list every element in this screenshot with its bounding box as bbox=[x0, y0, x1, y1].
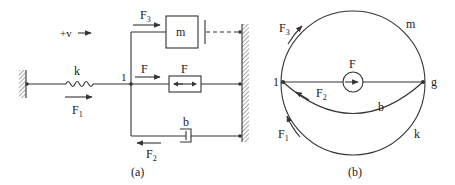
f3-label-a: F3 bbox=[140, 8, 151, 24]
diagram-canvas: k F1 +v 1 m F3 F F b F2 bbox=[0, 0, 455, 185]
edge-m-label: m bbox=[406, 17, 416, 31]
panel-a: k F1 +v 1 m F3 F F b F2 bbox=[19, 8, 249, 179]
f1-label-a: F1 bbox=[72, 103, 83, 119]
source-label-b: F bbox=[349, 57, 356, 71]
panel-b: F b m k 1 g F3 F2 F1 (b) bbox=[273, 11, 437, 179]
edge-b bbox=[283, 82, 423, 114]
source-label-a: F bbox=[181, 62, 188, 76]
spring-label: k bbox=[74, 64, 80, 78]
f1-label-b: F1 bbox=[278, 127, 289, 143]
edge-b-label: b bbox=[378, 100, 384, 114]
node-1-label-a: 1 bbox=[121, 71, 127, 83]
node-g-label-b: g bbox=[431, 75, 437, 89]
caption-a: (a) bbox=[131, 165, 144, 179]
damper-label: b bbox=[183, 115, 189, 129]
f2-arrow-b bbox=[296, 92, 309, 100]
right-ground-wall bbox=[242, 24, 249, 142]
node-1-label-b: 1 bbox=[273, 75, 279, 89]
velocity-label: +v bbox=[60, 27, 72, 39]
caption-b: (b) bbox=[348, 165, 362, 179]
mass-label: m bbox=[176, 25, 186, 39]
f1-arrow-b bbox=[287, 116, 300, 137]
f2-label-b: F2 bbox=[316, 86, 327, 102]
f3-label-b: F3 bbox=[279, 21, 290, 37]
outer-circle-graph bbox=[281, 11, 425, 155]
edge-k-label: k bbox=[414, 127, 420, 141]
f2-label-a: F2 bbox=[146, 147, 157, 163]
node-1-b bbox=[281, 80, 285, 84]
left-ground-wall bbox=[19, 70, 26, 98]
spring-k bbox=[66, 82, 93, 87]
node-g-b bbox=[421, 80, 425, 84]
f-label-a: F bbox=[141, 62, 148, 76]
